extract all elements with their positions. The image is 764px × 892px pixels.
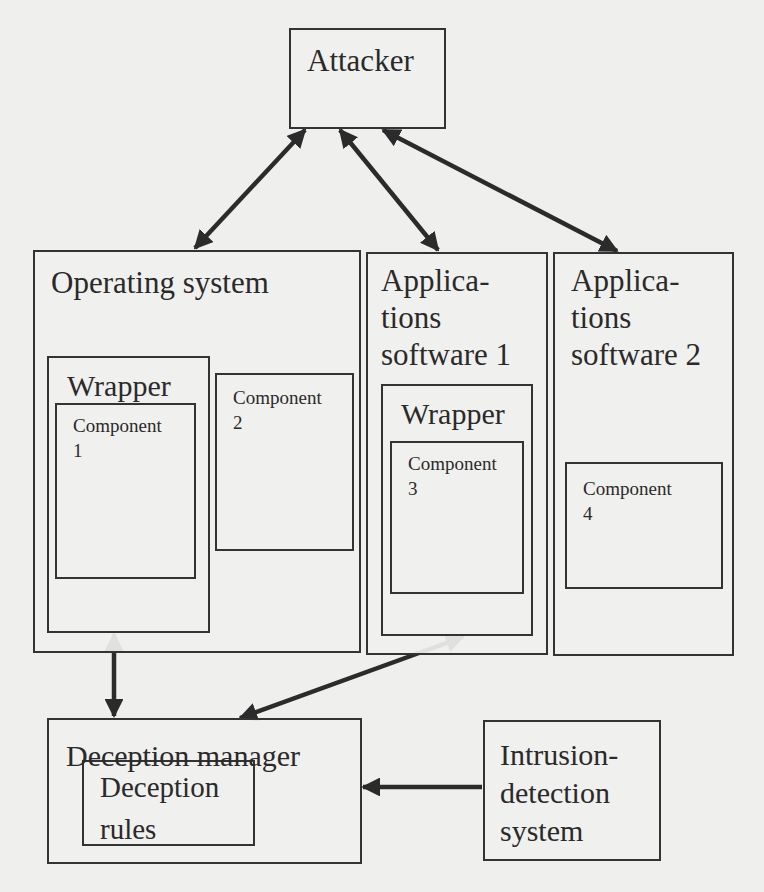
attacker-box: Attacker xyxy=(289,28,446,129)
applications-software-2-label: Applica- tions software 2 xyxy=(571,262,701,373)
arrow-attacker-app1 xyxy=(340,130,438,250)
component-1-label: Component 1 xyxy=(73,413,162,463)
os-wrapper-label: Wrapper xyxy=(67,368,171,404)
intrusion-detection-system-label: Intrusion- detection system xyxy=(500,736,618,850)
intrusion-detection-system-box: Intrusion- detection system xyxy=(483,720,661,861)
applications-software-2-box: Applica- tions software 2 xyxy=(553,252,734,656)
component-1-box: Component 1 xyxy=(55,403,196,579)
component-4-label: Component 4 xyxy=(583,476,672,526)
component-3-label: Component 3 xyxy=(408,451,497,501)
operating-system-label: Operating system xyxy=(51,264,269,301)
component-4-box: Component 4 xyxy=(565,462,723,589)
arrow-attacker-app2 xyxy=(383,130,617,251)
attacker-label: Attacker xyxy=(307,42,414,79)
component-2-box: Component 2 xyxy=(215,373,354,551)
deception-manager-label: Deception manager xyxy=(66,738,300,774)
component-2-label: Component 2 xyxy=(233,385,322,435)
applications-software-1-label: Applica- tions software 1 xyxy=(381,262,511,373)
deception-rules-label: Deception rules xyxy=(100,766,219,850)
app1-wrapper-label: Wrapper xyxy=(401,396,505,432)
component-3-box: Component 3 xyxy=(390,441,524,594)
arrow-attacker-os xyxy=(195,130,305,248)
